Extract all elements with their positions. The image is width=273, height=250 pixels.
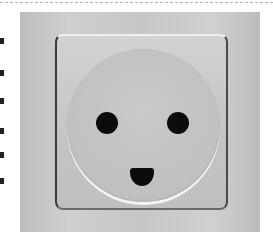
left-pin-hole xyxy=(96,112,118,134)
outlet-photo xyxy=(20,12,260,232)
cropped-text-fragments xyxy=(0,10,6,210)
right-pin-hole xyxy=(167,112,189,134)
dashed-top-border xyxy=(0,2,273,3)
